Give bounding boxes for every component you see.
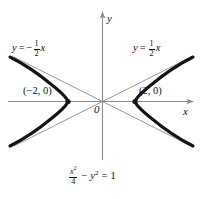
asymptote-right-denominator: 2 (149, 49, 155, 59)
equation-rhs: 1 (111, 170, 116, 181)
asymptote-right-equals: = (140, 42, 146, 53)
vertex-right-label: (2, 0) (139, 86, 162, 97)
vertex-left-point (65, 99, 70, 104)
asymptote-left-label: y=−12x (12, 40, 45, 58)
asymptote-right-label: y=12x (133, 40, 160, 58)
asymptote-left-denominator: 2 (34, 49, 40, 59)
equation-equals: = (102, 170, 108, 181)
asymptote-left-sign: − (27, 42, 33, 53)
origin-label: 0 (94, 104, 100, 115)
equation-y-exponent: 2 (95, 169, 99, 177)
asymptote-right-y: y (133, 42, 138, 53)
asymptote-left-equals: = (19, 42, 25, 53)
x-axis (8, 99, 194, 104)
asymptote-right-numerator: 1 (149, 40, 155, 49)
x-axis-label: x (183, 106, 188, 117)
equation-numerator-exponent: 2 (74, 165, 77, 171)
vertex-left-label: (−2, 0) (23, 86, 52, 97)
equation-fraction: x2 4 (69, 168, 77, 186)
equation-denominator: 4 (69, 177, 77, 187)
equation-minus: − (81, 170, 87, 181)
asymptote-right-fraction: 12 (149, 40, 155, 58)
equation-label: x2 4 −y2=1 (68, 168, 116, 186)
asymptote-left-numerator: 1 (34, 40, 40, 49)
hyperbola-figure: y x 0 y=−12x y=12x (−2, 0) (2, 0) x2 4 −… (0, 0, 201, 199)
y-axis (100, 11, 105, 160)
asymptote-right-variable: x (156, 42, 161, 53)
equation-numerator: x2 (69, 168, 77, 177)
y-axis-label: y (107, 13, 112, 24)
asymptote-left-variable: x (41, 42, 46, 53)
asymptote-left-y: y (12, 42, 17, 53)
asymptote-left-fraction: 12 (34, 40, 40, 58)
vertex-right-point (132, 99, 137, 104)
